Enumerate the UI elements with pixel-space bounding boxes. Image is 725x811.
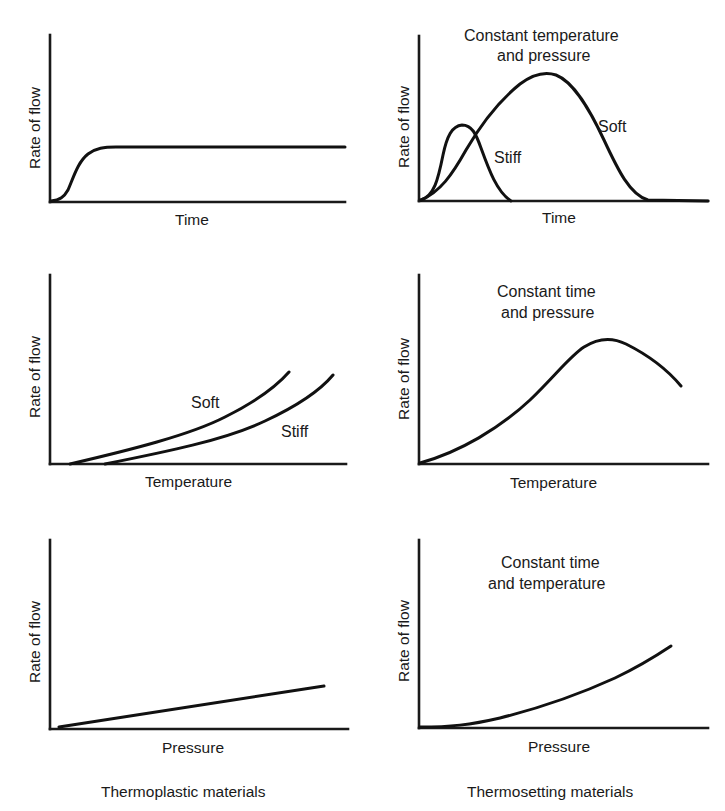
y-axis-label: Rate of flow xyxy=(26,86,43,169)
y-axis-label: Rate of flow xyxy=(395,85,412,168)
x-axis-label: Time xyxy=(175,211,209,228)
series-label-stiff: Stiff xyxy=(494,149,522,166)
x-axis-label: Pressure xyxy=(528,738,590,755)
soft-curve xyxy=(421,73,708,201)
chart-bottom-right: Constant time and temperature Rate of fl… xyxy=(395,540,708,755)
x-axis-label: Time xyxy=(542,209,576,226)
flow-curve xyxy=(420,339,681,463)
chart-title-line-2: and pressure xyxy=(501,304,594,321)
chart-title-line-2: and pressure xyxy=(497,47,590,64)
y-axis-label: Rate of flow xyxy=(395,337,412,420)
soft-curve xyxy=(70,372,289,464)
chart-title-line-1: Constant time xyxy=(501,554,600,571)
chart-top-left: Rate of flow Time xyxy=(26,35,345,228)
series-label-soft: Soft xyxy=(191,394,220,411)
x-axis-label: Temperature xyxy=(510,474,597,491)
caption-thermosetting: Thermosetting materials xyxy=(467,783,634,800)
y-axis-label: Rate of flow xyxy=(26,335,43,418)
chart-title-line-1: Constant temperature xyxy=(464,27,619,44)
figure: Rate of flow Time Constant temperature a… xyxy=(0,0,725,811)
y-axis-label: Rate of flow xyxy=(395,599,412,682)
series-label-soft: Soft xyxy=(598,118,627,135)
chart-bottom-left: Rate of flow Pressure xyxy=(26,540,348,756)
chart-title-line-2: and temperature xyxy=(488,575,606,592)
chart-top-right: Constant temperature and pressure Soft S… xyxy=(395,27,708,226)
chart-title-line-1: Constant time xyxy=(497,283,596,300)
flow-curve xyxy=(420,646,671,727)
chart-middle-right: Constant time and pressure Rate of flow … xyxy=(395,275,708,491)
flow-line xyxy=(59,686,324,727)
caption-thermoplastic: Thermoplastic materials xyxy=(101,783,266,800)
x-axis-label: Temperature xyxy=(145,473,232,490)
series-label-stiff: Stiff xyxy=(281,423,309,440)
y-axis-label: Rate of flow xyxy=(26,600,43,683)
chart-middle-left: Soft Stiff Rate of flow Temperature xyxy=(26,275,346,490)
flow-curve xyxy=(51,147,345,201)
x-axis-label: Pressure xyxy=(162,739,224,756)
